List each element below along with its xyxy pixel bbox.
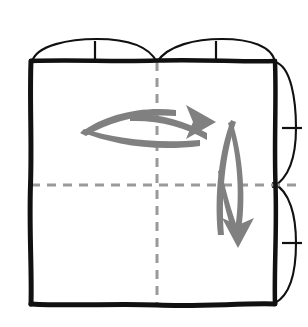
sheet-top-edge <box>31 60 275 61</box>
sheet-left-edge <box>30 61 31 304</box>
figure-canvas <box>0 0 308 327</box>
sheet-right-edge <box>275 61 276 304</box>
origami-diagram: Origami folding step diagram Square shee… <box>0 0 308 327</box>
sheet-bottom-edge <box>31 304 275 306</box>
